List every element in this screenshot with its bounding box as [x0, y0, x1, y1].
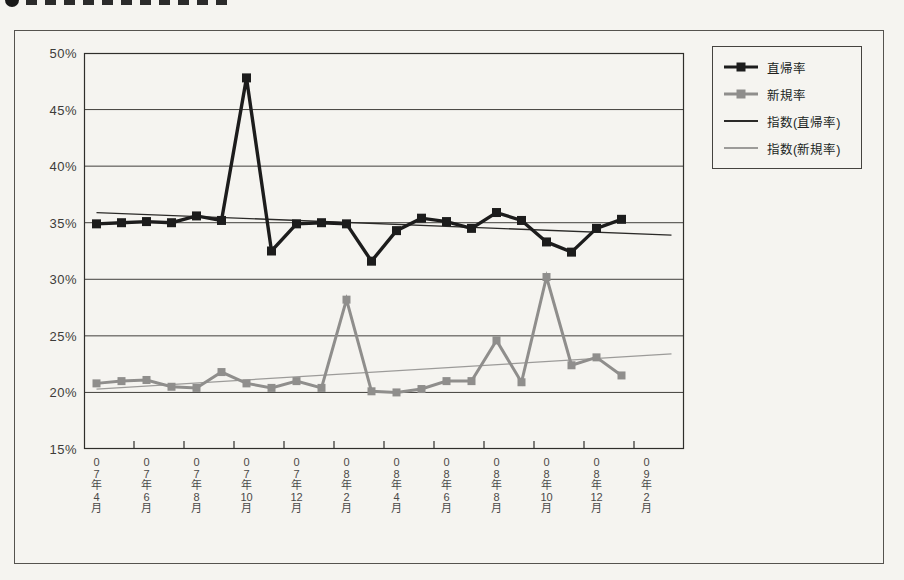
data-point-marker [617, 215, 626, 224]
legend: 直帰率新規率指数(直帰率)指数(新規率) [712, 46, 862, 169]
data-point-marker [242, 73, 251, 82]
data-point-marker [267, 247, 276, 256]
legend-item: 指数(直帰率) [724, 112, 855, 130]
data-point-marker [343, 296, 351, 304]
y-tick-label: 50% [15, 46, 77, 61]
x-tick-label: 09年2月 [641, 457, 652, 515]
data-point-marker [543, 273, 551, 281]
scanned-chart-page: { "page": {"background": "#f5f4f0"}, "ch… [0, 0, 904, 580]
data-point-marker [142, 217, 151, 226]
data-point-marker [418, 385, 426, 393]
legend-swatch-line [724, 147, 758, 149]
data-point-marker [117, 218, 126, 227]
legend-line-swatch [724, 142, 758, 154]
x-tick-label: 08年8月 [491, 457, 502, 515]
legend-item: 新規率 [724, 85, 855, 103]
cropped-title-text [26, 0, 231, 5]
legend-item-label: 指数(新規率) [767, 139, 840, 158]
data-point-marker [618, 371, 626, 379]
x-tick-label: 07年12月 [290, 457, 302, 515]
y-tick-label: 45% [15, 102, 77, 117]
data-point-marker [192, 211, 201, 220]
data-point-marker [268, 384, 276, 392]
legend-item: 直帰率 [724, 58, 855, 76]
trendline-指数(直帰率) [97, 213, 672, 236]
data-point-marker [368, 387, 376, 395]
y-tick-label: 30% [15, 272, 77, 287]
data-point-marker [542, 237, 551, 246]
series-line-直帰率 [97, 78, 622, 261]
plot-area [84, 53, 684, 449]
data-point-marker [567, 248, 576, 257]
data-point-marker [417, 214, 426, 223]
data-point-marker [568, 361, 576, 369]
data-point-marker [218, 368, 226, 376]
data-point-marker [492, 208, 501, 217]
data-point-marker [317, 218, 326, 227]
data-point-marker [493, 336, 501, 344]
y-tick-label: 20% [15, 385, 77, 400]
data-point-marker [367, 257, 376, 266]
legend-swatch-line [724, 120, 758, 122]
data-point-marker [93, 379, 101, 387]
legend-swatch-marker [737, 63, 746, 72]
data-point-marker [593, 353, 601, 361]
data-point-marker [143, 376, 151, 384]
x-tick-label: 07年4月 [91, 457, 102, 515]
legend-swatch-marker [737, 90, 746, 99]
y-tick-label: 25% [15, 328, 77, 343]
data-point-marker [168, 383, 176, 391]
data-point-marker [468, 377, 476, 385]
data-point-marker [392, 226, 401, 235]
legend-line-marker-swatch [724, 61, 758, 73]
x-tick-label: 07年10月 [240, 457, 252, 515]
data-point-marker [118, 377, 126, 385]
legend-item: 指数(新規率) [724, 139, 855, 157]
legend-item-label: 新規率 [767, 85, 806, 104]
data-point-marker [243, 379, 251, 387]
legend-line-marker-swatch [724, 88, 758, 100]
trendline-指数(新規率) [97, 354, 672, 389]
x-tick-label: 08年6月 [441, 457, 452, 515]
data-point-marker [518, 378, 526, 386]
x-tick-label: 07年6月 [141, 457, 152, 515]
cropped-title-fragment [5, 0, 231, 7]
data-point-marker [292, 219, 301, 228]
data-point-marker [217, 216, 226, 225]
legend-item-label: 指数(直帰率) [767, 112, 840, 131]
x-tick-label: 08年4月 [391, 457, 402, 515]
x-tick-label: 08年2月 [341, 457, 352, 515]
data-point-marker [342, 219, 351, 228]
x-tick-label: 08年10月 [540, 457, 552, 515]
legend-item-label: 直帰率 [767, 58, 806, 77]
series-line-新規率 [97, 277, 622, 392]
legend-line-swatch [724, 115, 758, 127]
data-point-marker [167, 218, 176, 227]
y-tick-label: 15% [15, 442, 77, 457]
data-point-marker [92, 219, 101, 228]
data-point-marker [193, 384, 201, 392]
y-tick-label: 35% [15, 215, 77, 230]
y-tick-label: 40% [15, 159, 77, 174]
figure-border: 50%45%40%35%30%25%20%15% 07年4月07年6月07年8月… [14, 30, 884, 564]
data-point-marker [293, 377, 301, 385]
data-point-marker [443, 377, 451, 385]
data-point-marker [592, 224, 601, 233]
data-point-marker [467, 224, 476, 233]
x-tick-label: 07年8月 [191, 457, 202, 515]
data-point-marker [393, 388, 401, 396]
x-tick-label: 08年12月 [590, 457, 602, 515]
data-point-marker [442, 217, 451, 226]
bullet-icon [5, 0, 19, 7]
data-point-marker [517, 216, 526, 225]
data-point-marker [318, 384, 326, 392]
